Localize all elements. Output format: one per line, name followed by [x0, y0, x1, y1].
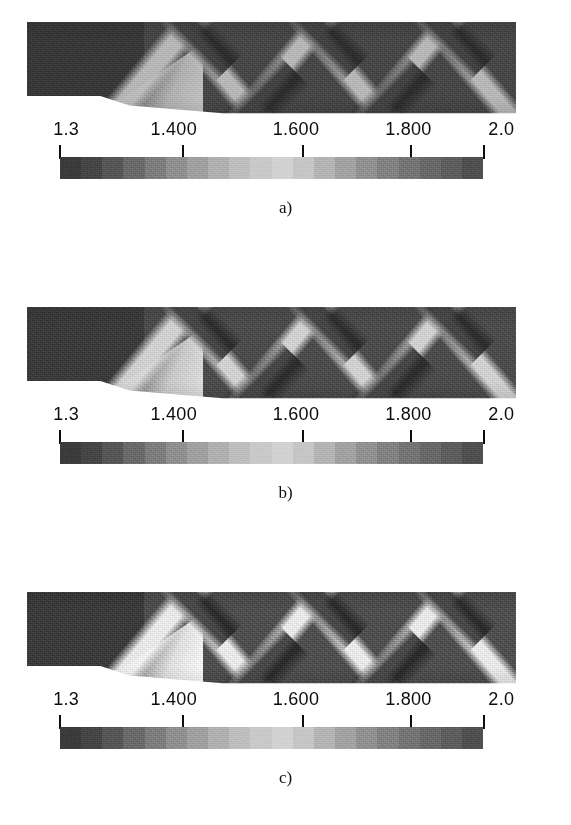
contour-image-a: [27, 22, 516, 117]
colorbar-band-9: [250, 157, 271, 179]
colorbar-band-0: [60, 157, 81, 179]
colorbar-band-10: [272, 157, 293, 179]
contour-image-c: [27, 592, 516, 687]
colorbar-band-2: [102, 727, 123, 749]
colorbar-b: 1.3 1.400 1.600 1.800 2.0: [27, 403, 516, 481]
colorbar-a: 1.3 1.400 1.600 1.800 2.0: [27, 118, 516, 196]
colorbar-band-10: [272, 727, 293, 749]
colorbar-band-8: [229, 157, 250, 179]
colorbar-band-4: [145, 442, 166, 464]
colorbar-band-13: [335, 157, 356, 179]
colorbar-tick-max-c: [483, 715, 485, 729]
colorbar-band-14: [356, 157, 377, 179]
colorbar-band-3: [123, 442, 144, 464]
colorbar-band-0: [60, 727, 81, 749]
colorbar-band-6: [187, 157, 208, 179]
colorbar-band-1: [81, 442, 102, 464]
colorbar-band-8: [229, 727, 250, 749]
colorbar-band-17: [420, 727, 441, 749]
colorbar-band-7: [208, 442, 229, 464]
colorbar-label-min-a: 1.3: [53, 118, 79, 140]
colorbar-band-10: [272, 442, 293, 464]
colorbar-band-1: [81, 157, 102, 179]
colorbar-band-12: [314, 442, 335, 464]
colorbar-band-19: [462, 442, 483, 464]
colorbar-band-11: [293, 157, 314, 179]
colorbar-gradient-a: [60, 157, 483, 179]
colorbar-label-max-b: 2.0: [488, 403, 514, 425]
figure-panel-c: 1.3 1.400 1.600 1.800 2.0 c): [0, 570, 571, 825]
colorbar-c: 1.3 1.400 1.600 1.800 2.0: [27, 688, 516, 766]
colorbar-label-1600-a: 1.600: [273, 118, 320, 140]
colorbar-band-19: [462, 157, 483, 179]
colorbar-label-1800-c: 1.800: [385, 688, 432, 710]
colorbar-band-16: [399, 727, 420, 749]
colorbar-band-1: [81, 727, 102, 749]
colorbar-band-5: [166, 157, 187, 179]
colorbar-gradient-b: [60, 442, 483, 464]
panel-caption-a: a): [0, 198, 571, 218]
colorbar-band-4: [145, 727, 166, 749]
colorbar-band-5: [166, 442, 187, 464]
colorbar-label-1400-c: 1.400: [150, 688, 197, 710]
colorbar-band-6: [187, 727, 208, 749]
colorbar-band-12: [314, 727, 335, 749]
colorbar-label-min-b: 1.3: [53, 403, 79, 425]
colorbar-band-6: [187, 442, 208, 464]
colorbar-band-9: [250, 727, 271, 749]
colorbar-band-15: [377, 157, 398, 179]
colorbar-band-18: [441, 727, 462, 749]
colorbar-label-1600-b: 1.600: [273, 403, 320, 425]
contour-field-b: [27, 307, 516, 402]
colorbar-band-19: [462, 727, 483, 749]
colorbar-tick-max-a: [483, 145, 485, 159]
colorbar-label-max-c: 2.0: [488, 688, 514, 710]
colorbar-label-max-a: 2.0: [488, 118, 514, 140]
panel-caption-c: c): [0, 768, 571, 788]
colorbar-tick-max-b: [483, 430, 485, 444]
colorbar-band-18: [441, 442, 462, 464]
colorbar-band-15: [377, 442, 398, 464]
colorbar-band-13: [335, 442, 356, 464]
figure-container: 1.3 1.400 1.600 1.800 2.0 a): [0, 0, 571, 825]
colorbar-label-1600-c: 1.600: [273, 688, 320, 710]
colorbar-label-1400-a: 1.400: [150, 118, 197, 140]
colorbar-label-1800-a: 1.800: [385, 118, 432, 140]
colorbar-band-12: [314, 157, 335, 179]
colorbar-band-16: [399, 442, 420, 464]
colorbar-band-16: [399, 157, 420, 179]
colorbar-band-3: [123, 727, 144, 749]
colorbar-band-2: [102, 442, 123, 464]
panel-caption-b: b): [0, 483, 571, 503]
colorbar-band-0: [60, 442, 81, 464]
figure-panel-a: 1.3 1.400 1.600 1.800 2.0 a): [0, 0, 571, 255]
colorbar-band-17: [420, 442, 441, 464]
colorbar-band-17: [420, 157, 441, 179]
colorbar-tick-labels-a: 1.3 1.400 1.600 1.800 2.0: [27, 118, 516, 144]
colorbar-label-1400-b: 1.400: [150, 403, 197, 425]
colorbar-band-11: [293, 727, 314, 749]
colorbar-band-18: [441, 157, 462, 179]
colorbar-label-min-c: 1.3: [53, 688, 79, 710]
colorbar-band-8: [229, 442, 250, 464]
colorbar-band-7: [208, 157, 229, 179]
contour-field-c: [27, 592, 516, 687]
colorbar-tick-labels-b: 1.3 1.400 1.600 1.800 2.0: [27, 403, 516, 429]
colorbar-band-2: [102, 157, 123, 179]
colorbar-tick-labels-c: 1.3 1.400 1.600 1.800 2.0: [27, 688, 516, 714]
colorbar-band-7: [208, 727, 229, 749]
colorbar-band-4: [145, 157, 166, 179]
colorbar-band-15: [377, 727, 398, 749]
colorbar-band-14: [356, 442, 377, 464]
colorbar-band-9: [250, 442, 271, 464]
colorbar-band-13: [335, 727, 356, 749]
colorbar-band-3: [123, 157, 144, 179]
figure-panel-b: 1.3 1.400 1.600 1.800 2.0 b): [0, 285, 571, 540]
contour-image-b: [27, 307, 516, 402]
colorbar-band-5: [166, 727, 187, 749]
contour-field-a: [27, 22, 516, 117]
colorbar-gradient-c: [60, 727, 483, 749]
colorbar-label-1800-b: 1.800: [385, 403, 432, 425]
colorbar-band-14: [356, 727, 377, 749]
colorbar-band-11: [293, 442, 314, 464]
